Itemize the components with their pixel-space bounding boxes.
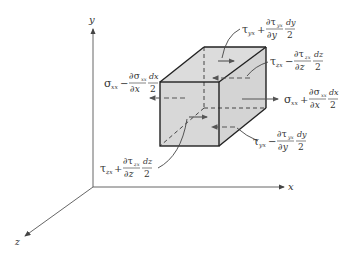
label-sigma-plus: σ xx + ∂σ xx ∂x dx 2 — [284, 87, 339, 110]
svg-text:∂z: ∂z — [124, 169, 134, 179]
stress-cube — [160, 47, 266, 146]
svg-text:∂z: ∂z — [295, 62, 305, 72]
z-axis — [25, 187, 93, 236]
svg-text:dx: dx — [329, 88, 339, 97]
label-tau-zx-plus: τ zx + ∂τ zx ∂z dz 2 — [100, 156, 153, 179]
svg-text:2: 2 — [298, 142, 304, 152]
svg-text:−: − — [120, 78, 128, 89]
svg-text:∂y: ∂y — [267, 30, 278, 40]
svg-text:+: + — [257, 24, 265, 35]
svg-text:zx: zx — [105, 168, 113, 175]
svg-text:∂x: ∂x — [310, 100, 320, 110]
svg-text:dy: dy — [297, 130, 307, 139]
svg-text:2: 2 — [315, 62, 321, 72]
svg-text:xx: xx — [111, 83, 118, 90]
svg-text:∂σ: ∂σ — [129, 71, 140, 81]
svg-text:2: 2 — [150, 84, 156, 94]
svg-text:dx: dx — [149, 72, 159, 81]
svg-text:yx: yx — [276, 22, 283, 29]
svg-text:yx: yx — [287, 134, 294, 141]
svg-text:+: + — [300, 94, 308, 105]
svg-text:dz: dz — [314, 50, 324, 59]
svg-text:∂τ: ∂τ — [123, 156, 133, 166]
svg-text:∂σ: ∂σ — [309, 87, 320, 97]
svg-text:zx: zx — [275, 61, 283, 68]
svg-text:zx: zx — [304, 54, 311, 60]
svg-text:dz: dz — [143, 157, 153, 166]
svg-text:dy: dy — [286, 18, 296, 27]
label-tau-zx-minus: τ zx − ∂τ zx ∂z dz 2 — [270, 49, 324, 72]
svg-text:∂y: ∂y — [278, 142, 289, 152]
label-tau-yx-minus: τ yx − ∂τ yx ∂y dy 2 — [253, 129, 307, 152]
svg-text:yx: yx — [247, 29, 255, 37]
svg-text:xx: xx — [321, 92, 327, 98]
svg-text:zx: zx — [133, 161, 140, 167]
svg-text:2: 2 — [330, 100, 336, 110]
svg-text:2: 2 — [144, 169, 150, 179]
y-axis-label: y — [88, 14, 95, 25]
z-axis-label: z — [14, 237, 20, 247]
svg-text:xx: xx — [291, 99, 298, 106]
svg-text:+: + — [114, 163, 122, 174]
svg-text:−: − — [285, 56, 293, 67]
svg-text:yx: yx — [258, 141, 266, 149]
label-tau-yx-plus: τ yx + ∂τ yx ∂y dy 2 — [242, 17, 296, 40]
svg-text:xx: xx — [141, 76, 147, 82]
svg-text:∂x: ∂x — [130, 84, 140, 94]
svg-text:∂τ: ∂τ — [294, 49, 304, 59]
x-axis-label: x — [288, 181, 294, 192]
cube-front-face — [160, 82, 219, 146]
svg-text:∂τ: ∂τ — [266, 17, 276, 27]
svg-text:∂τ: ∂τ — [277, 129, 287, 139]
svg-text:−: − — [268, 136, 276, 147]
label-sigma-minus: σ xx − ∂σ xx ∂x dx 2 — [104, 71, 159, 94]
svg-text:2: 2 — [287, 30, 293, 40]
stress-element-diagram: y x z — [0, 0, 355, 255]
